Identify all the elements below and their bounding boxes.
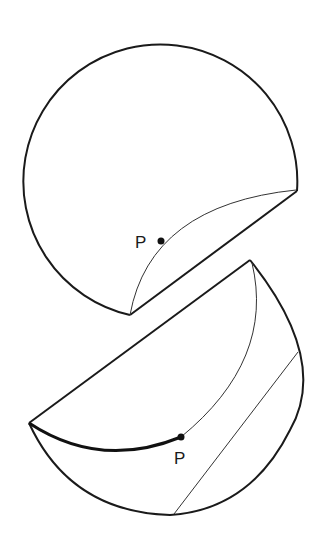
bottom-bold-arc (29, 423, 181, 451)
top-circle-outline (23, 44, 297, 315)
bottom-point-p-label: P (174, 449, 185, 468)
top-point-p-dot (158, 238, 165, 245)
top-point-p-label: P (135, 233, 146, 252)
top-fold-edge (130, 191, 297, 315)
bottom-straight-edge (29, 260, 250, 423)
bottom-inner-arc (181, 263, 257, 437)
bottom-shape: P (29, 260, 303, 515)
top-shape: P (23, 44, 297, 315)
bottom-chord (174, 352, 298, 514)
diagram-canvas: P P (0, 0, 328, 538)
bottom-outer-arc (29, 260, 303, 515)
bottom-point-p-dot (178, 434, 185, 441)
